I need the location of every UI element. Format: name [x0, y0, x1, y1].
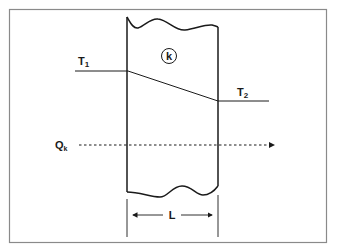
t1-label: T1: [78, 55, 90, 69]
t2-label: T2: [237, 86, 249, 100]
conductivity-label: k: [162, 49, 177, 64]
conductivity-symbol: k: [166, 50, 173, 62]
thickness-dimension: L: [127, 195, 218, 237]
figure-frame: [10, 10, 327, 243]
wall-top-break: [127, 17, 218, 30]
wall: [127, 17, 218, 197]
heat-flow-label: Qk: [55, 139, 68, 152]
thickness-label: L: [169, 209, 176, 221]
wall-bottom-break: [127, 186, 218, 197]
diagram-canvas: k T1 T2 Qk L: [0, 0, 337, 250]
temperature-gradient-line: [128, 71, 218, 101]
heat-flow: Qk: [55, 139, 274, 152]
